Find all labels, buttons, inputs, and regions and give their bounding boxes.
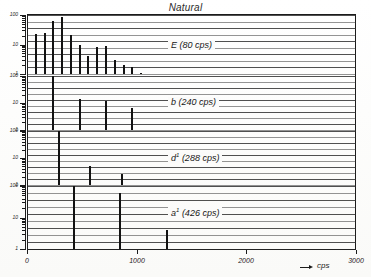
- y-axis-minor-tick: [22, 199, 26, 200]
- y-axis-minor-tick: [22, 36, 26, 37]
- y-axis-minor-tick: [22, 80, 26, 81]
- y-axis-minor-tick: [22, 20, 26, 21]
- panel-rule-line: [27, 143, 356, 144]
- spectral-bar: [105, 101, 107, 130]
- spectral-bar: [52, 21, 54, 74]
- panel-rule-line: [27, 242, 356, 243]
- y-axis-major-tick: [20, 15, 26, 16]
- y-axis-minor-tick: [22, 117, 26, 118]
- y-axis-minor-tick: [22, 27, 26, 28]
- y-axis-minor-tick: [22, 77, 26, 78]
- spectral-bar: [121, 174, 123, 185]
- y-axis-minor-tick: [22, 65, 26, 66]
- spectral-bar: [73, 186, 75, 249]
- y-axis-tick-label: 10: [4, 215, 18, 220]
- spectral-bar: [61, 17, 63, 74]
- y-axis-tick-label: 100: [4, 12, 18, 17]
- y-axis-minor-tick: [22, 134, 26, 135]
- y-axis-minor-tick: [22, 234, 26, 235]
- y-axis-tick-label: 10: [4, 155, 18, 160]
- y-axis-major-tick: [20, 45, 26, 46]
- panel-caption-d1: d1 (288 cps): [168, 152, 222, 163]
- y-axis-minor-tick: [22, 90, 26, 91]
- y-axis-major-tick: [20, 218, 26, 219]
- panel-rule-line: [27, 61, 356, 62]
- y-axis-minor-tick: [22, 104, 26, 105]
- panel-rule-line: [27, 137, 356, 138]
- y-axis-minor-tick: [22, 195, 26, 196]
- panel-rule-line: [27, 94, 356, 95]
- y-axis-minor-tick: [22, 172, 26, 173]
- y-axis-major-tick: [20, 74, 26, 75]
- y-axis-minor-tick: [22, 106, 26, 107]
- y-axis-minor-tick: [22, 132, 26, 133]
- y-axis-minor-tick: [22, 208, 26, 209]
- spectral-bar: [119, 193, 121, 249]
- y-axis-minor-tick: [22, 187, 26, 188]
- panel-rule-line: [27, 124, 356, 125]
- x-axis-unit-label: cps: [317, 261, 329, 270]
- y-axis-minor-tick: [22, 53, 26, 54]
- y-axis-minor-tick: [22, 107, 26, 108]
- y-axis-minor-tick: [22, 193, 26, 194]
- y-axis-minor-tick: [22, 60, 26, 61]
- caption-freq: (80 cps): [180, 40, 213, 50]
- panel-rule-line: [27, 249, 356, 250]
- x-axis-tick: [246, 250, 247, 254]
- spectral-bar: [52, 76, 54, 130]
- x-axis-tick: [27, 250, 28, 254]
- y-axis-major-tick: [20, 131, 26, 132]
- caption-note: E: [171, 40, 177, 50]
- panel-rule-line: [27, 35, 356, 36]
- spectral-bar: [123, 65, 125, 74]
- cps-arrow-head: [309, 265, 313, 269]
- spectral-bar: [58, 131, 60, 185]
- y-axis-minor-tick: [22, 84, 26, 85]
- y-axis-tick-label: 100: [4, 128, 18, 133]
- spectral-bar: [79, 99, 81, 130]
- y-axis-minor-tick: [22, 177, 26, 178]
- y-axis-tick-label: 1: [4, 246, 18, 251]
- spectral-bar: [79, 45, 81, 74]
- y-axis-minor-tick: [22, 142, 26, 143]
- x-axis-tick-label: 1000: [129, 257, 145, 264]
- spectral-bar: [70, 35, 72, 74]
- y-axis-minor-tick: [22, 30, 26, 31]
- panel-rule-line: [27, 179, 356, 180]
- y-axis-tick-label: 100: [4, 73, 18, 78]
- x-axis-tick-label: 3000: [348, 257, 364, 264]
- y-axis-minor-tick: [22, 189, 26, 190]
- y-axis-minor-tick: [22, 139, 26, 140]
- panel-rule-line: [27, 167, 356, 168]
- y-axis-minor-tick: [22, 145, 26, 146]
- y-axis-minor-tick: [22, 135, 26, 136]
- y-axis-tick-label: 10: [4, 100, 18, 105]
- caption-superscript: 1: [176, 152, 179, 158]
- y-axis-minor-tick: [22, 230, 26, 231]
- y-axis-minor-tick: [22, 51, 26, 52]
- y-axis-minor-tick: [22, 161, 26, 162]
- spectral-bar: [105, 46, 107, 74]
- y-axis-minor-tick: [22, 79, 26, 80]
- panel-rule-line: [27, 235, 356, 236]
- spectral-bar: [166, 230, 168, 249]
- y-axis-minor-tick: [22, 82, 26, 83]
- y-axis-minor-tick: [22, 202, 26, 203]
- spectral-bar: [96, 47, 98, 74]
- panel-rule-line: [27, 131, 356, 132]
- y-axis-minor-tick: [22, 56, 26, 57]
- y-axis-major-tick: [20, 76, 26, 77]
- panel-rule-line: [27, 76, 356, 77]
- y-axis-major-tick: [20, 249, 26, 250]
- y-axis-minor-tick: [22, 219, 26, 220]
- spectral-bar: [114, 60, 116, 74]
- panel-rule-line: [27, 173, 356, 174]
- y-axis-major-tick: [20, 103, 26, 104]
- x-axis-tick: [356, 250, 357, 254]
- x-axis-tick-label: 2000: [238, 257, 254, 264]
- y-axis-minor-tick: [22, 122, 26, 123]
- y-axis-minor-tick: [22, 137, 26, 138]
- x-axis-tick: [137, 250, 138, 254]
- y-axis-minor-tick: [22, 24, 26, 25]
- y-axis-major-tick: [20, 186, 26, 187]
